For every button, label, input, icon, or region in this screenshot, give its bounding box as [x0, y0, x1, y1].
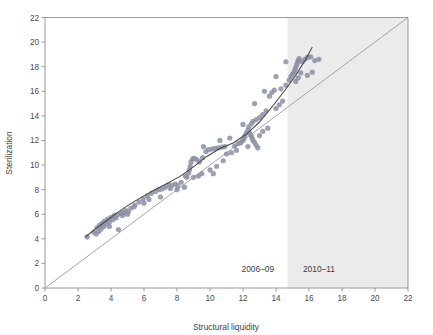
x-tick-label: 22 [403, 294, 413, 303]
data-point [262, 89, 267, 94]
data-point [224, 151, 229, 156]
period-annotation-label: 2010–11 [303, 264, 335, 274]
data-point [179, 180, 184, 185]
y-tick-label: 4 [34, 235, 39, 244]
y-tick-label: 8 [34, 186, 39, 195]
data-point [272, 87, 277, 92]
data-point [227, 135, 232, 140]
data-point [214, 164, 219, 169]
data-point [308, 54, 313, 59]
data-point [158, 194, 163, 199]
data-point [265, 126, 270, 131]
data-point-group [84, 54, 321, 239]
data-point [296, 75, 301, 80]
x-tick-label: 20 [370, 294, 380, 303]
data-point [125, 212, 130, 217]
data-point [252, 101, 257, 106]
data-point [280, 99, 285, 104]
x-tick-label: 16 [304, 294, 314, 303]
y-tick-label: 16 [30, 87, 40, 96]
data-point [255, 145, 260, 150]
y-tick-label: 0 [34, 284, 39, 293]
data-point [107, 224, 112, 229]
y-tick-label: 2 [34, 259, 39, 268]
y-axis-title: Sterilization [4, 131, 14, 175]
data-point [221, 158, 226, 163]
data-point [94, 231, 99, 236]
y-tick-label: 14 [30, 112, 40, 121]
x-axis-ticks: 0246810121416182022 [43, 288, 413, 303]
x-tick-label: 4 [109, 294, 114, 303]
data-point [201, 144, 206, 149]
data-point [191, 175, 196, 180]
data-point [217, 138, 222, 143]
data-point [229, 150, 234, 155]
data-point [196, 174, 201, 179]
scatter-chart: 0246810121416182022 0246810121416182022 … [0, 0, 433, 335]
y-tick-label: 12 [30, 136, 40, 145]
chart-container: 0246810121416182022 0246810121416182022 … [0, 0, 433, 335]
data-point [257, 133, 262, 138]
data-point [146, 197, 151, 202]
data-point [273, 74, 278, 79]
x-tick-label: 10 [205, 294, 215, 303]
data-point [240, 122, 245, 127]
data-point [264, 108, 269, 113]
data-point [141, 201, 146, 206]
y-axis-ticks: 0246810121416182022 [30, 14, 45, 294]
data-point [116, 227, 121, 232]
y-tick-label: 22 [30, 14, 40, 23]
y-tick-label: 10 [30, 161, 40, 170]
data-point [168, 186, 173, 191]
data-point [278, 86, 283, 91]
data-point [316, 57, 321, 62]
data-point [234, 148, 239, 153]
data-point [211, 171, 216, 176]
period-annotation-label: 2006–09 [242, 264, 275, 274]
x-axis-title: Structural liquidity [193, 322, 260, 332]
data-point [245, 144, 250, 149]
x-tick-label: 0 [43, 294, 48, 303]
data-point [260, 129, 265, 134]
x-tick-label: 2 [76, 294, 81, 303]
data-point [310, 70, 315, 75]
y-tick-label: 6 [34, 210, 39, 219]
data-point [132, 204, 137, 209]
x-tick-label: 6 [142, 294, 147, 303]
y-tick-label: 18 [30, 63, 40, 72]
x-tick-label: 12 [238, 294, 248, 303]
data-point [283, 59, 288, 64]
data-point [120, 213, 125, 218]
data-point [182, 185, 187, 190]
x-tick-label: 14 [271, 294, 281, 303]
x-tick-label: 18 [337, 294, 347, 303]
data-point [174, 187, 179, 192]
x-tick-label: 8 [175, 294, 180, 303]
y-tick-label: 20 [30, 38, 40, 47]
data-point [305, 73, 310, 78]
